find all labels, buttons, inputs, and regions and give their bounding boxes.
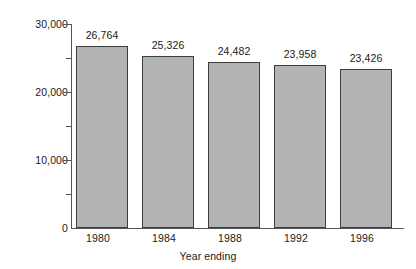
x-axis-tick-label-1980: 1980 bbox=[62, 232, 134, 244]
y-axis-tick-label-30000: 30,000 bbox=[6, 19, 68, 29]
bar-1992[interactable] bbox=[274, 65, 326, 228]
bar-chart: 30,000 20,000 10,000 0 26,764 25,326 24,… bbox=[0, 0, 416, 269]
bar-1980[interactable] bbox=[76, 46, 128, 228]
bar-slot-1984: 25,326 bbox=[142, 24, 194, 228]
x-axis-tick-label-1996: 1996 bbox=[326, 232, 398, 244]
bar-value-label: 23,426 bbox=[326, 53, 406, 64]
bar-1984[interactable] bbox=[142, 56, 194, 228]
y-axis-tick-label-20000: 20,000 bbox=[6, 87, 68, 97]
bar-1988[interactable] bbox=[208, 62, 260, 229]
x-axis-tick-label-1992: 1992 bbox=[260, 232, 332, 244]
x-axis-line bbox=[71, 228, 404, 229]
plot-area: 26,764 25,326 24,482 23,958 23,426 bbox=[72, 24, 404, 228]
x-axis-tick-label-1984: 1984 bbox=[128, 232, 200, 244]
bar-slot-1980: 26,764 bbox=[76, 24, 128, 228]
bar-slot-1988: 24,482 bbox=[208, 24, 260, 228]
y-axis-tick-label-0: 0 bbox=[6, 223, 68, 233]
y-axis-tick-label-10000: 10,000 bbox=[6, 155, 68, 165]
bar-slot-1996: 23,426 bbox=[340, 24, 392, 228]
bar-slot-1992: 23,958 bbox=[274, 24, 326, 228]
x-axis-title: Year ending bbox=[0, 250, 416, 262]
x-axis-tick-label-1988: 1988 bbox=[194, 232, 266, 244]
bar-1996[interactable] bbox=[340, 69, 392, 228]
